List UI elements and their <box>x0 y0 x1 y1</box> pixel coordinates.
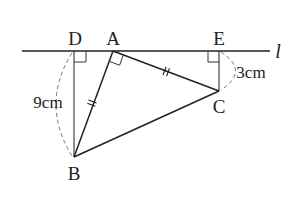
label-d: D <box>68 28 82 49</box>
segment-ac <box>113 51 219 91</box>
label-line-l: l <box>275 40 281 62</box>
right-angle-mark-e <box>208 51 219 62</box>
label-a: A <box>106 28 120 49</box>
measure-bd: 9cm <box>33 93 62 112</box>
label-c: C <box>213 96 226 117</box>
measure-ce: 3cm <box>236 63 265 82</box>
right-angle-mark-d <box>74 51 86 62</box>
label-e: E <box>213 28 225 49</box>
label-b: B <box>68 163 81 184</box>
dashed-arc-ce <box>221 52 236 90</box>
segment-bc <box>74 91 219 157</box>
diagram-svg: D A E B C l 9cm 3cm <box>0 0 296 204</box>
geometry-diagram: D A E B C l 9cm 3cm <box>0 0 296 204</box>
